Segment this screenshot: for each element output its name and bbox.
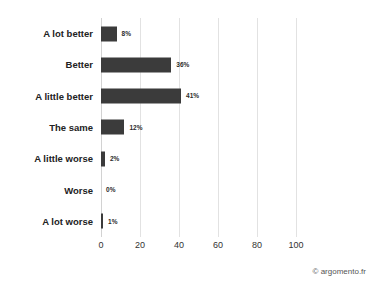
x-tick-label: 100: [288, 240, 303, 250]
bar: [101, 214, 103, 229]
bar: [101, 151, 105, 166]
bar-track: 41%: [101, 89, 199, 104]
category-label: Worse: [0, 174, 93, 205]
bar-row: 0%: [101, 174, 296, 205]
bar-row: 1%: [101, 206, 296, 237]
bar-value-label: 12%: [129, 124, 142, 131]
x-tick-label: 40: [174, 240, 184, 250]
bar: [101, 120, 124, 135]
bar-track: 1%: [101, 214, 118, 229]
x-tick-label: 80: [252, 240, 262, 250]
bar-track: 36%: [101, 57, 190, 72]
category-label: The same: [0, 112, 93, 143]
bar: [101, 57, 171, 72]
x-tick-label: 20: [135, 240, 145, 250]
bar-value-label: 8%: [122, 30, 132, 37]
bar-track: 2%: [101, 151, 120, 166]
bar-row: 12%: [101, 112, 296, 143]
bar-row: 41%: [101, 81, 296, 112]
bar-value-label: 36%: [176, 62, 189, 69]
plot-area: 8%36%41%12%2%0%1%: [101, 18, 296, 237]
bar-value-label: 41%: [186, 93, 199, 100]
bar-track: 8%: [101, 26, 131, 41]
bar-row: 8%: [101, 18, 296, 49]
category-axis-labels: A lot betterBetterA little betterThe sam…: [0, 18, 93, 237]
x-tick-label: 0: [98, 240, 103, 250]
gridline-100: [296, 18, 297, 237]
bar-row: 2%: [101, 143, 296, 174]
bar-row: 36%: [101, 49, 296, 80]
bar-value-label: 2%: [110, 156, 120, 163]
bar-track: 0%: [101, 183, 116, 198]
credit-text: © argomento.fr: [313, 267, 366, 276]
bar-chart-figure: A lot betterBetterA little betterThe sam…: [0, 0, 378, 295]
bar-value-label: 1%: [108, 218, 118, 225]
category-label: Better: [0, 49, 93, 80]
bar-track: 12%: [101, 120, 143, 135]
x-tick-label: 60: [213, 240, 223, 250]
bar: [101, 89, 181, 104]
category-label: A little better: [0, 81, 93, 112]
category-label: A lot worse: [0, 206, 93, 237]
category-label: A lot better: [0, 18, 93, 49]
category-label: A little worse: [0, 143, 93, 174]
bar-value-label: 0%: [106, 187, 116, 194]
x-axis-ticks: 020406080100: [101, 240, 296, 254]
bar: [101, 26, 117, 41]
